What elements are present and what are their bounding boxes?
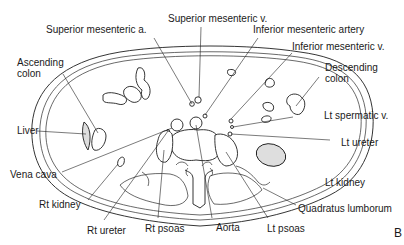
label-lt-ureter: Lt ureter <box>341 137 379 148</box>
label-descending-colon-2: colon <box>325 73 349 84</box>
label-lt-kidney: Lt kidney <box>325 177 365 188</box>
label-vena-cava: Vena cava <box>10 169 57 180</box>
label-inferior-mesenteric-artery: Inferior mesenteric artery <box>253 24 364 35</box>
label-ascending-colon-1: Ascending <box>17 57 64 68</box>
label-lt-spermatic-v: Lt spermatic v. <box>324 110 388 121</box>
label-rt-psoas: Rt psoas <box>145 223 184 234</box>
label-ascending-colon-2: colon <box>17 68 41 79</box>
labels: Superior mesenteric a. Superior mesenter… <box>10 13 402 240</box>
rt-kidney-shape <box>118 157 125 166</box>
lt-kidney-shape <box>254 140 289 169</box>
label-quadratus-lumborum: Quadratus lumborum <box>298 203 392 214</box>
abdominal-cross-section-diagram: Superior mesenteric a. Superior mesenter… <box>0 0 404 245</box>
label-superior-mesenteric-v: Superior mesenteric v. <box>168 13 267 24</box>
label-superior-mesenteric-a: Superior mesenteric a. <box>46 24 147 35</box>
ascending-colon-shape <box>92 128 106 150</box>
superior-mesenteric-v-vessel <box>195 97 201 103</box>
inferior-mesenteric-v-vessel <box>229 119 233 123</box>
vena-cava-vessel <box>171 119 183 131</box>
label-aorta: Aorta <box>216 222 240 233</box>
vertebra <box>170 129 220 208</box>
liver-shape <box>83 122 91 150</box>
panel-label: B <box>394 226 402 240</box>
label-descending-colon-1: Descending <box>325 62 378 73</box>
label-rt-ureter: Rt ureter <box>87 225 127 236</box>
lt-psoas-shape <box>215 134 238 166</box>
label-inferior-mesenteric-v: Inferior mesenteric v. <box>292 41 385 52</box>
bowel-loops <box>103 68 274 123</box>
label-lt-psoas: Lt psoas <box>267 223 305 234</box>
label-liver: Liver <box>17 125 39 136</box>
label-rt-kidney: Rt kidney <box>39 199 81 210</box>
aorta-vessel <box>190 117 202 129</box>
descending-colon-shape <box>287 94 305 114</box>
